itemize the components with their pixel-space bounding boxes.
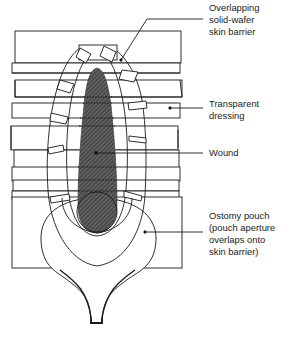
wound-dressing-diagram xyxy=(0,0,290,337)
label-transparent-dressing: Transparent dressing xyxy=(209,98,259,122)
label-skin-barrier: Overlapping solid-wafer skin barrier xyxy=(209,2,260,38)
label-ostomy-pouch: Ostomy pouch (pouch aperture overlaps on… xyxy=(209,210,275,258)
label-wound: Wound xyxy=(209,147,239,159)
